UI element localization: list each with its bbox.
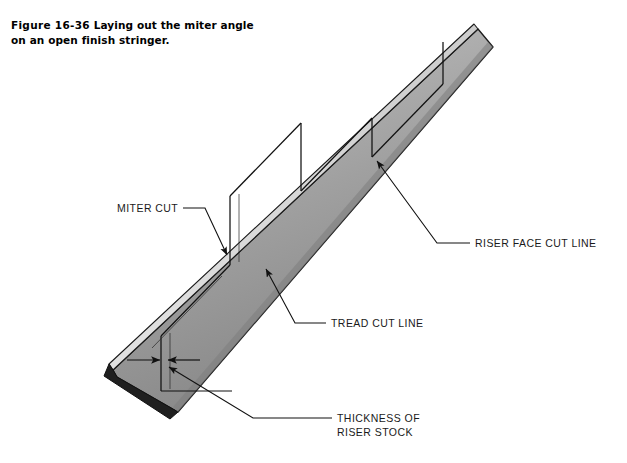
- tread-cut-line-label: TREAD CUT LINE: [331, 317, 423, 329]
- stringer-board: [104, 24, 493, 419]
- miter-cut-label: MITER CUT: [117, 202, 178, 214]
- miter-cut-leader: [183, 208, 227, 255]
- thickness-of-riser-stock-label-line2: RISER STOCK: [337, 426, 413, 438]
- board-lower-edge-shade: [173, 42, 493, 412]
- tread-cut-line-2: [230, 123, 301, 196]
- callout-riser-face-cut-line: RISER FACE CUT LINE: [377, 161, 597, 249]
- thickness-of-riser-stock-label-line1: THICKNESS OF: [337, 412, 420, 424]
- riser-face-cut-line-leader: [377, 161, 470, 243]
- figure-container: Figure 16-36 Laying out the miter angle …: [0, 0, 627, 463]
- stringer-illustration: MITER CUT RISER FACE CUT LINE TREAD CUT …: [0, 0, 627, 463]
- callout-miter-cut: MITER CUT: [117, 202, 227, 255]
- riser-face-cut-line-label: RISER FACE CUT LINE: [475, 237, 597, 249]
